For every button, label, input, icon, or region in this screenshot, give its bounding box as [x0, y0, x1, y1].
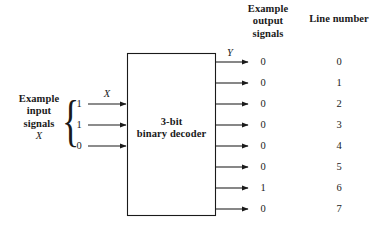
output-value-3: 0 — [256, 119, 270, 131]
input-label-line2: input — [8, 105, 70, 117]
output-value-2: 0 — [256, 98, 270, 110]
line-number-1: 1 — [332, 77, 346, 89]
output-value-4: 0 — [256, 140, 270, 152]
output-value-0: 0 — [256, 56, 270, 68]
input-label-variable: X — [8, 130, 70, 142]
decoder-box-label-line2: binary decoder — [127, 128, 216, 140]
output-signals-header: Example output signals — [238, 3, 298, 40]
input-signals-label: Example input signals X — [8, 93, 70, 143]
input-arrows — [88, 104, 126, 146]
line-number-0: 0 — [332, 56, 346, 68]
input-label-line3: signals — [8, 118, 70, 130]
output-value-6: 1 — [256, 182, 270, 194]
line-number-2: 2 — [332, 98, 346, 110]
line-number-4: 4 — [332, 140, 346, 152]
line-number-3: 3 — [332, 119, 346, 131]
output-arrows — [216, 62, 248, 209]
input-label-line1: Example — [8, 93, 70, 105]
input-bit-0: 1 — [72, 98, 86, 110]
line-number-6: 6 — [332, 182, 346, 194]
output-header-line2: output — [238, 15, 298, 27]
output-header-line3: signals — [238, 28, 298, 40]
output-value-5: 0 — [256, 161, 270, 173]
output-value-1: 0 — [256, 77, 270, 89]
output-header-line1: Example — [238, 3, 298, 15]
input-bit-1: 1 — [72, 119, 86, 131]
decoder-box-label: 3-bit binary decoder — [127, 116, 216, 141]
output-value-7: 0 — [256, 203, 270, 215]
line-number-5: 5 — [332, 161, 346, 173]
output-bus-label: Y — [223, 47, 237, 59]
input-bus-label: X — [100, 88, 114, 100]
decoder-diagram: Example input signals X { 1 1 0 X 3-bit … — [0, 0, 381, 229]
decoder-box-label-line1: 3-bit — [127, 116, 216, 128]
line-number-header: Line number — [303, 13, 375, 25]
line-number-7: 7 — [332, 203, 346, 215]
input-bit-2: 0 — [72, 140, 86, 152]
